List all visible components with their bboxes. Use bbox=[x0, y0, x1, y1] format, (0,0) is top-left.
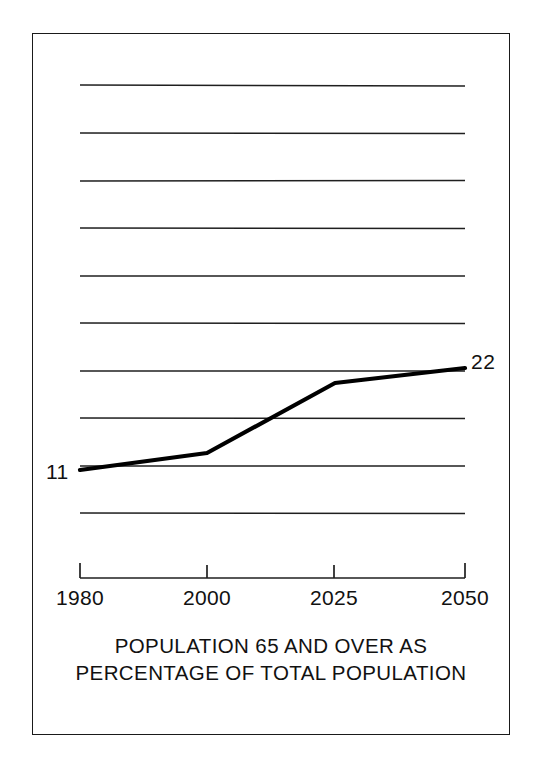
x-tick-label-2000: 2000 bbox=[183, 586, 231, 610]
x-tick-label-2025: 2025 bbox=[310, 586, 358, 610]
end-value-label: 22 bbox=[471, 350, 495, 374]
chart-caption: POPULATION 65 AND OVER AS PERCENTAGE OF … bbox=[32, 632, 510, 686]
caption-line-1: POPULATION 65 AND OVER AS bbox=[32, 632, 510, 659]
x-tick-label-2050: 2050 bbox=[441, 586, 489, 610]
x-tick-label-1980: 1980 bbox=[56, 586, 104, 610]
caption-line-2: PERCENTAGE OF TOTAL POPULATION bbox=[32, 659, 510, 686]
start-value-label: 11 bbox=[46, 460, 69, 484]
figure-frame bbox=[32, 33, 510, 735]
chart-figure: 11 22 1980 2000 2025 2050 POPULATION 65 … bbox=[0, 0, 538, 760]
